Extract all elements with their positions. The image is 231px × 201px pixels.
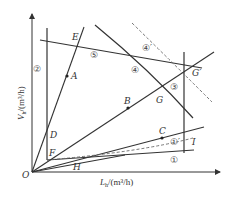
operating-line-OAE: [32, 27, 84, 172]
operating-line-OBG: [32, 52, 214, 172]
y-axis-label: Vh/(m³/h): [16, 86, 27, 120]
label-G-prime: G′: [192, 68, 201, 78]
point-B: [126, 106, 129, 109]
label-I: I: [191, 137, 196, 147]
label-curve-2: ②: [33, 64, 41, 74]
label-C: C: [159, 126, 166, 136]
operating-line-OC: [32, 127, 204, 172]
label-E: E: [71, 32, 79, 42]
line-4-flooding: [95, 25, 193, 118]
x-axis-label: Lh/(m³/h): [99, 177, 133, 188]
label-curve-1-prime: ①′: [170, 137, 180, 147]
point-C: [160, 136, 163, 139]
label-D: D: [49, 130, 57, 140]
label-curve-3: ③: [170, 82, 178, 92]
label-O: O: [22, 170, 30, 180]
label-F: F: [48, 148, 56, 158]
label-curve-4: ④: [131, 65, 139, 75]
label-curve-1: ①: [170, 155, 178, 165]
label-G: G: [156, 95, 163, 105]
operating-diagram: O A B C D E F G G′ H I ② ⑤ ④ ④′ ③ ①′ ① L…: [0, 0, 231, 201]
label-A: A: [70, 71, 78, 81]
label-H: H: [72, 162, 81, 172]
point-A: [65, 74, 68, 77]
label-B: B: [123, 96, 131, 106]
line-5-entrainment: [40, 40, 202, 68]
label-curve-4-prime: ④′: [142, 43, 152, 53]
label-curve-5: ⑤: [90, 50, 98, 60]
